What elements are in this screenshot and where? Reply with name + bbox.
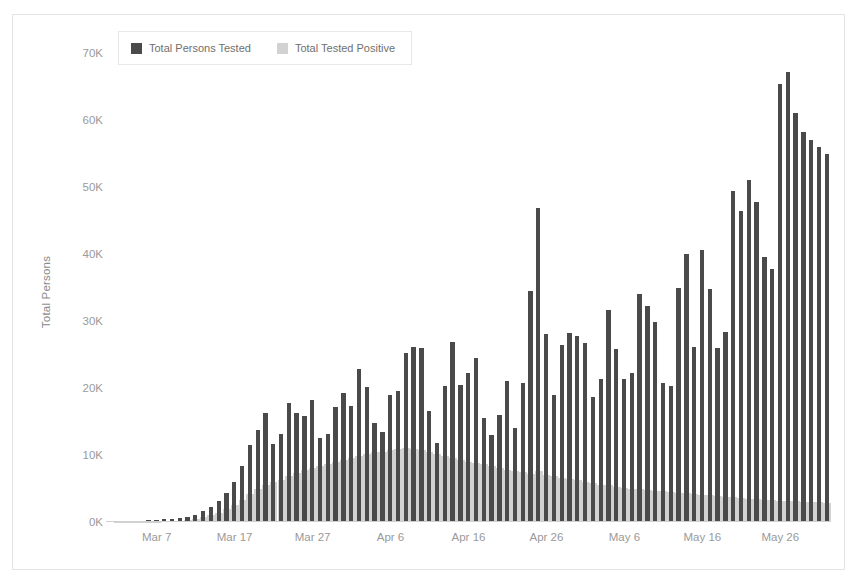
bar-group[interactable]: [153, 33, 161, 522]
bar-group[interactable]: [441, 33, 449, 522]
bar-group[interactable]: [387, 33, 395, 522]
bar-group[interactable]: [278, 33, 286, 522]
bar-group[interactable]: [769, 33, 777, 522]
bar-group[interactable]: [239, 33, 247, 522]
bar-group[interactable]: [543, 33, 551, 522]
bar-group[interactable]: [574, 33, 582, 522]
bar-group[interactable]: [254, 33, 262, 522]
bar-group[interactable]: [808, 33, 816, 522]
bar-group[interactable]: [566, 33, 574, 522]
bar-total-persons-tested: [786, 72, 790, 522]
bar-group[interactable]: [558, 33, 566, 522]
bar-group[interactable]: [371, 33, 379, 522]
bar-group[interactable]: [129, 33, 137, 522]
bar-group[interactable]: [714, 33, 722, 522]
bar-group[interactable]: [207, 33, 215, 522]
bar-group[interactable]: [792, 33, 800, 522]
bar-group[interactable]: [761, 33, 769, 522]
bar-total-persons-tested: [661, 383, 665, 522]
bar-group[interactable]: [589, 33, 597, 522]
bar-group[interactable]: [410, 33, 418, 522]
bar-group[interactable]: [737, 33, 745, 522]
legend-item[interactable]: Total Persons Tested: [131, 42, 251, 54]
bar-group[interactable]: [683, 33, 691, 522]
bar-group[interactable]: [706, 33, 714, 522]
bar-group[interactable]: [122, 33, 130, 522]
bar-group[interactable]: [496, 33, 504, 522]
bar-group[interactable]: [402, 33, 410, 522]
bar-group[interactable]: [784, 33, 792, 522]
bar-total-persons-tested: [248, 445, 252, 522]
bar-group[interactable]: [137, 33, 145, 522]
bar-group[interactable]: [363, 33, 371, 522]
bar-group[interactable]: [465, 33, 473, 522]
bar-group[interactable]: [340, 33, 348, 522]
bar-group[interactable]: [379, 33, 387, 522]
bar-group[interactable]: [293, 33, 301, 522]
bar-group[interactable]: [776, 33, 784, 522]
bar-group[interactable]: [519, 33, 527, 522]
bar-group[interactable]: [605, 33, 613, 522]
bar-group[interactable]: [675, 33, 683, 522]
bar-group[interactable]: [815, 33, 823, 522]
bar-group[interactable]: [355, 33, 363, 522]
bar-group[interactable]: [114, 33, 122, 522]
legend-item[interactable]: Total Tested Positive: [277, 42, 395, 54]
bar-group[interactable]: [535, 33, 543, 522]
bar-group[interactable]: [215, 33, 223, 522]
bar-group[interactable]: [597, 33, 605, 522]
bar-total-persons-tested: [622, 379, 626, 522]
bar-group[interactable]: [621, 33, 629, 522]
bar-group[interactable]: [426, 33, 434, 522]
bar-group[interactable]: [418, 33, 426, 522]
bar-group[interactable]: [527, 33, 535, 522]
bar-group[interactable]: [745, 33, 753, 522]
bar-group[interactable]: [691, 33, 699, 522]
bar-group[interactable]: [722, 33, 730, 522]
bar-group[interactable]: [184, 33, 192, 522]
bar-group[interactable]: [285, 33, 293, 522]
bar-group[interactable]: [504, 33, 512, 522]
bar-group[interactable]: [324, 33, 332, 522]
bar-group[interactable]: [200, 33, 208, 522]
bar-group[interactable]: [698, 33, 706, 522]
bar-group[interactable]: [449, 33, 457, 522]
bar-group[interactable]: [628, 33, 636, 522]
bar-group[interactable]: [168, 33, 176, 522]
bar-group[interactable]: [316, 33, 324, 522]
bar-group[interactable]: [433, 33, 441, 522]
bar-group[interactable]: [652, 33, 660, 522]
bar-group[interactable]: [550, 33, 558, 522]
bar-group[interactable]: [613, 33, 621, 522]
bar-group[interactable]: [472, 33, 480, 522]
bar-group[interactable]: [246, 33, 254, 522]
bar-group[interactable]: [659, 33, 667, 522]
bar-group[interactable]: [223, 33, 231, 522]
bar-group[interactable]: [644, 33, 652, 522]
bar-total-persons-tested: [271, 444, 275, 522]
bar-group[interactable]: [480, 33, 488, 522]
bar-group[interactable]: [262, 33, 270, 522]
bar-group[interactable]: [636, 33, 644, 522]
bar-group[interactable]: [176, 33, 184, 522]
bar-group[interactable]: [161, 33, 169, 522]
bar-group[interactable]: [800, 33, 808, 522]
bar-group[interactable]: [301, 33, 309, 522]
bar-group[interactable]: [753, 33, 761, 522]
bar-group[interactable]: [332, 33, 340, 522]
bar-group[interactable]: [309, 33, 317, 522]
bar-group[interactable]: [488, 33, 496, 522]
bar-group[interactable]: [667, 33, 675, 522]
bar-group[interactable]: [192, 33, 200, 522]
bar-group[interactable]: [145, 33, 153, 522]
bar-group[interactable]: [394, 33, 402, 522]
bar-group[interactable]: [582, 33, 590, 522]
bar-group[interactable]: [270, 33, 278, 522]
bar-group[interactable]: [823, 33, 831, 522]
bar-group[interactable]: [106, 33, 114, 522]
bar-group[interactable]: [730, 33, 738, 522]
bar-group[interactable]: [457, 33, 465, 522]
bar-group[interactable]: [511, 33, 519, 522]
bar-group[interactable]: [231, 33, 239, 522]
bar-group[interactable]: [348, 33, 356, 522]
